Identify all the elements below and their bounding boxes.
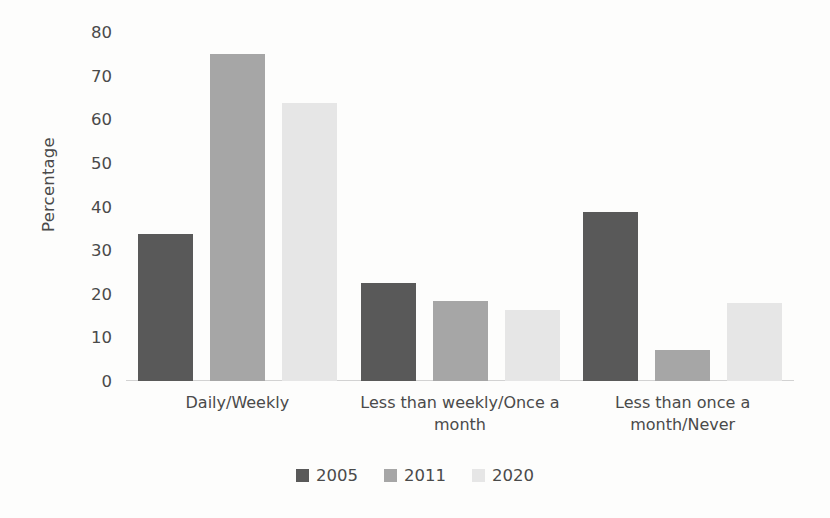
y-axis-tick-20: 20 (91, 284, 112, 303)
legend-swatch-icon-2020 (472, 469, 485, 482)
x-axis-label-1: Daily/Weekly (126, 392, 349, 436)
bar-2011-group-2[interactable] (433, 301, 488, 381)
y-axis-tick-30: 30 (91, 241, 112, 260)
bars (571, 32, 794, 381)
y-axis-tick-50: 50 (91, 153, 112, 172)
bar-2020-group-3[interactable] (727, 303, 782, 381)
bars (126, 32, 349, 381)
legend-swatch-icon-2011 (384, 469, 397, 482)
x-axis-category-labels: Daily/WeeklyLess than weekly/Once a mont… (126, 392, 794, 436)
legend-label-2005: 2005 (316, 466, 358, 485)
legend-label-2011: 2011 (404, 466, 446, 485)
y-axis-tick-labels: 80706050403020100 (60, 32, 112, 381)
bar-group-1 (126, 32, 349, 381)
y-axis-tick-10: 10 (91, 328, 112, 347)
bar-2005-group-3[interactable] (583, 212, 638, 381)
legend-item-2005[interactable]: 2005 (296, 466, 358, 485)
legend-label-2020: 2020 (492, 466, 534, 485)
bar-2005-group-2[interactable] (361, 283, 416, 381)
x-axis-label-3: Less than once a month/Never (571, 392, 794, 436)
bar-2005-group-1[interactable] (138, 234, 193, 381)
bar-groups (126, 32, 794, 381)
legend-item-2011[interactable]: 2011 (384, 466, 446, 485)
bar-2020-group-2[interactable] (505, 310, 560, 381)
x-axis-label-2: Less than weekly/Once a month (349, 392, 572, 436)
y-axis-tick-0: 0 (102, 372, 113, 391)
bar-2011-group-3[interactable] (655, 350, 710, 381)
bar-chart: Percentage 80706050403020100 Daily/Weekl… (0, 0, 830, 518)
bars (349, 32, 572, 381)
y-axis-tick-60: 60 (91, 110, 112, 129)
y-axis-title: Percentage (39, 75, 58, 295)
bar-2011-group-1[interactable] (210, 54, 265, 381)
legend-swatch-icon-2005 (296, 469, 309, 482)
bar-group-2 (349, 32, 572, 381)
bar-2020-group-1[interactable] (282, 103, 337, 381)
y-axis-tick-40: 40 (91, 197, 112, 216)
bar-group-3 (571, 32, 794, 381)
y-axis-tick-80: 80 (91, 23, 112, 42)
y-axis-tick-70: 70 (91, 66, 112, 85)
legend-item-2020[interactable]: 2020 (472, 466, 534, 485)
chart-legend: 200520112020 (0, 466, 830, 485)
